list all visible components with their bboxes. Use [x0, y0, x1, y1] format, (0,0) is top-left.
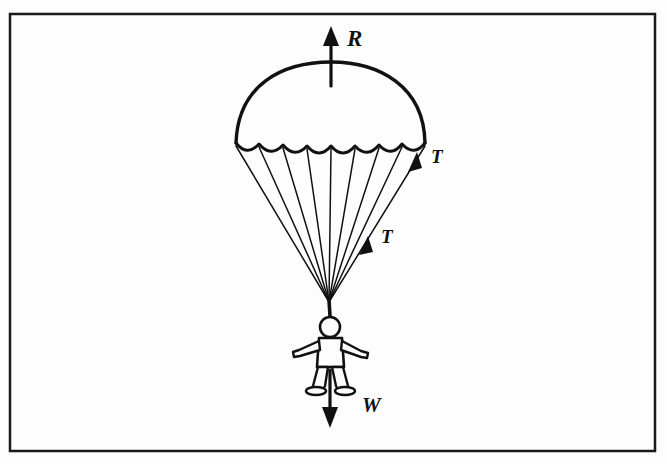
diagram-canvas: R T T W	[0, 0, 667, 464]
diagram-background	[0, 0, 667, 464]
label-T-lower: T	[381, 226, 394, 247]
label-W: W	[362, 393, 382, 417]
label-T-upper: T	[431, 146, 444, 167]
person-left-foot	[306, 387, 326, 395]
parachute-force-diagram: R T T W	[0, 0, 667, 464]
harness-riser	[329, 300, 330, 316]
label-R: R	[346, 26, 362, 51]
person-right-foot	[335, 387, 355, 395]
person-head	[320, 317, 340, 337]
person-torso	[317, 338, 344, 367]
